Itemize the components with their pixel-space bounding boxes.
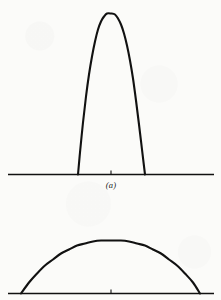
- figure-container: (a): [0, 0, 221, 300]
- panel-a-narrow-pulse-curve: [78, 13, 145, 174]
- panel-b-group: [8, 240, 214, 293]
- panel-b-broad-dome-curve: [21, 240, 200, 293]
- figure-canvas: [0, 0, 221, 300]
- panel-a-caption: (a): [91, 181, 131, 190]
- panel-a-group: [8, 13, 214, 174]
